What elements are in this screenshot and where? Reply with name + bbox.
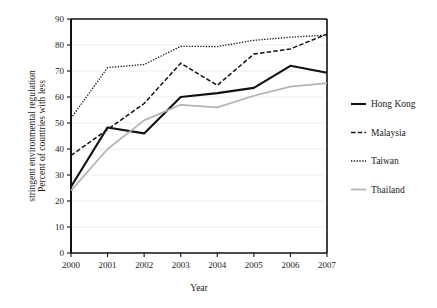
y-axis-title-line1: Percent of countries with less	[37, 80, 47, 192]
legend-label-hong-kong: Hong Kong	[371, 99, 416, 109]
legend-label-thailand: Thailand	[371, 185, 405, 195]
x-tick-label: 2001	[99, 260, 117, 270]
x-tick-label: 2005	[245, 260, 264, 270]
chart-legend: Hong KongMalaysiaTaiwanThailand	[351, 99, 416, 194]
x-tick-label: 2000	[62, 260, 81, 270]
line-chart: 0102030405060708090 20002001200220032004…	[0, 0, 437, 308]
y-axis-title: Percent of countries with less stringent…	[27, 70, 47, 202]
y-tick-labels: 0102030405060708090	[55, 14, 65, 258]
x-tick-label: 2006	[281, 260, 300, 270]
chart-container: 0102030405060708090 20002001200220032004…	[0, 0, 437, 308]
y-tick-label: 50	[55, 118, 65, 128]
x-tick-label: 2007	[318, 260, 337, 270]
x-tick-label: 2003	[172, 260, 191, 270]
y-axis-title-line2: stringent environmental regulation	[27, 70, 37, 202]
legend-label-taiwan: Taiwan	[371, 156, 399, 166]
y-tick-label: 90	[55, 14, 65, 24]
x-tick-labels: 20002001200220032004200520062007	[62, 260, 337, 270]
y-tick-label: 30	[55, 170, 65, 180]
plot-background	[71, 19, 327, 253]
x-tick-label: 2002	[135, 260, 153, 270]
legend-label-malaysia: Malaysia	[371, 128, 407, 138]
y-tick-label: 0	[60, 248, 65, 258]
y-tick-label: 10	[55, 222, 65, 232]
x-tick-label: 2004	[208, 260, 227, 270]
y-tick-label: 60	[55, 92, 65, 102]
y-tick-label: 20	[55, 196, 65, 206]
x-axis-title: Year	[190, 283, 208, 293]
y-tick-label: 80	[55, 40, 65, 50]
y-tick-label: 70	[55, 66, 65, 76]
y-tick-label: 40	[55, 144, 65, 154]
